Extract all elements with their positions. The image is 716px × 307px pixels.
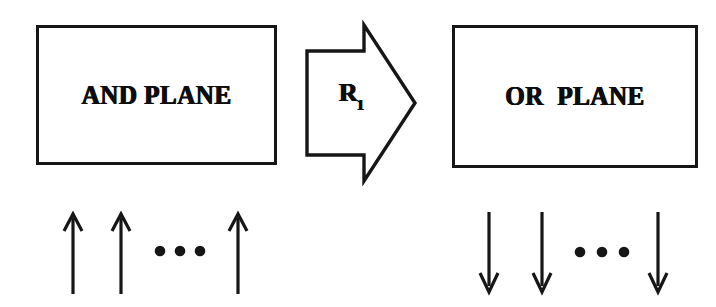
or-plane-block: OR PLANE	[452, 25, 698, 168]
down-arrow-icon	[480, 212, 667, 292]
ellipsis-dots-icon	[575, 247, 630, 258]
up-arrow-icon	[64, 214, 247, 294]
transition-label-subscript: 1	[357, 97, 365, 113]
transition-arrow: R1	[302, 20, 420, 186]
ellipsis-dots-icon	[155, 246, 206, 257]
and-plane-input-bundle	[56, 206, 266, 298]
diagram-canvas: AND PLANE R1 OR PLANE	[0, 0, 716, 307]
or-plane-output-bundle	[474, 206, 696, 298]
or-plane-label: OR PLANE	[505, 81, 645, 112]
transition-arrow-label: R1	[324, 80, 380, 110]
and-plane-label: AND PLANE	[82, 80, 232, 111]
transition-label-base: R	[339, 78, 358, 107]
and-plane-block: AND PLANE	[36, 25, 277, 165]
